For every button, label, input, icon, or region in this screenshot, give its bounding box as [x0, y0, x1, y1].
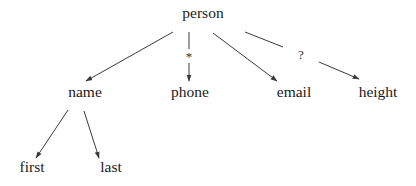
node-last: last [100, 158, 122, 175]
edge-person-height-upper [245, 32, 283, 47]
edge-name-first [36, 110, 68, 158]
edge-name-last [84, 111, 99, 158]
node-first: first [20, 158, 46, 175]
edge-person-email [213, 33, 277, 81]
edge-label-phone-multiplicity: * [186, 49, 193, 64]
node-name: name [68, 83, 102, 100]
node-person: person [182, 4, 224, 21]
edge-person-height-lower [319, 62, 359, 79]
edge-label-height-optional: ? [298, 47, 304, 62]
node-phone: phone [171, 83, 209, 100]
node-email: email [277, 83, 311, 100]
tree-diagram: * ? person name phone email height first… [0, 0, 416, 186]
node-height: height [359, 83, 398, 100]
edge-person-name [86, 32, 173, 81]
